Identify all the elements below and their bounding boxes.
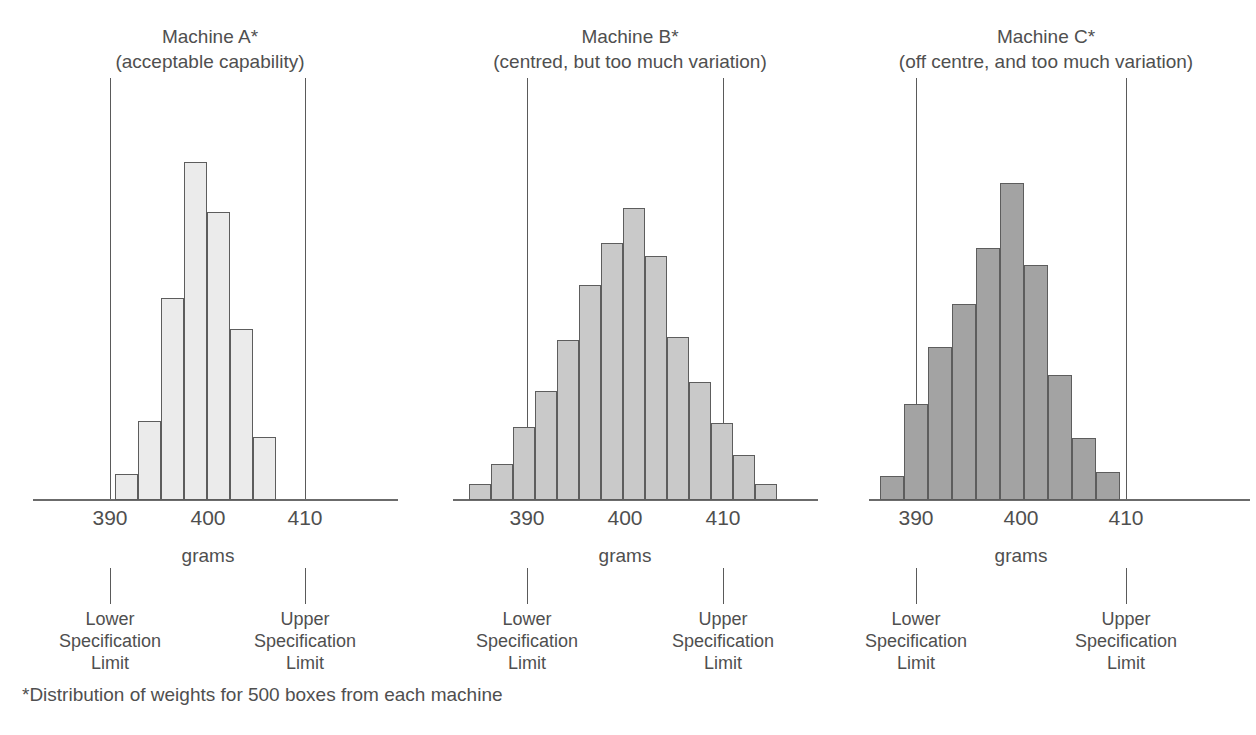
spec-caption-line3: Limit: [476, 652, 578, 674]
spec-caption-line1: Lower: [476, 608, 578, 630]
spec-caption-line3: Limit: [254, 652, 356, 674]
spec-caption-line2: Specification: [865, 630, 967, 652]
panel-a-lower-spec-caption: Lower Specification Limit: [59, 608, 161, 674]
panel-machine-a: Machine A* (acceptable capability) 390 4…: [0, 0, 420, 700]
panel-b-axis-name: grams: [599, 545, 652, 567]
bar: [733, 455, 755, 500]
capability-histograms-figure: Machine A* (acceptable capability) 390 4…: [0, 0, 1256, 735]
panel-machine-b: Machine B* (centred, but too much variat…: [420, 0, 840, 700]
bar: [1024, 265, 1048, 500]
panel-b-tick-390: 390: [509, 506, 544, 530]
figure-footnote: *Distribution of weights for 500 boxes f…: [22, 684, 503, 706]
panel-a-tick-410: 410: [287, 506, 322, 530]
bar: [711, 423, 733, 500]
panel-b-tick-400: 400: [607, 506, 642, 530]
panel-a-upper-spec-line: [305, 78, 306, 500]
panel-b-plot: [420, 0, 840, 500]
panel-b-upper-spec-stem: [723, 568, 724, 604]
panel-a-upper-spec-caption: Upper Specification Limit: [254, 608, 356, 674]
spec-caption-line3: Limit: [1075, 652, 1177, 674]
panel-a-tick-390: 390: [92, 506, 127, 530]
panel-machine-c: Machine C* (off centre, and too much var…: [836, 0, 1256, 700]
panel-c-axis-name: grams: [995, 545, 1048, 567]
panel-a-axis-name: grams: [182, 545, 235, 567]
spec-caption-line3: Limit: [59, 652, 161, 674]
panel-c-upper-spec-stem: [1126, 568, 1127, 604]
bar: [928, 347, 952, 500]
panel-a-upper-spec-stem: [305, 568, 306, 604]
bar: [952, 304, 976, 500]
bar: [1000, 183, 1024, 500]
panel-b-lower-spec-caption: Lower Specification Limit: [476, 608, 578, 674]
bar: [1072, 438, 1096, 500]
panel-c-upper-spec-line: [1126, 78, 1127, 500]
bar: [513, 427, 535, 500]
bar: [115, 474, 138, 500]
panel-a-plot: [0, 0, 420, 500]
bar: [976, 248, 1000, 500]
panel-c-upper-spec-caption: Upper Specification Limit: [1075, 608, 1177, 674]
spec-caption-line1: Upper: [672, 608, 774, 630]
bar: [230, 329, 253, 500]
spec-caption-line1: Upper: [1075, 608, 1177, 630]
bar: [601, 243, 623, 500]
bar: [184, 162, 207, 500]
spec-caption-line1: Upper: [254, 608, 356, 630]
bar: [469, 484, 491, 500]
panel-b-upper-spec-caption: Upper Specification Limit: [672, 608, 774, 674]
panel-a-lower-spec-stem: [110, 568, 111, 604]
spec-caption-line2: Specification: [476, 630, 578, 652]
bar: [579, 285, 601, 500]
bar: [880, 476, 904, 500]
bar: [645, 256, 667, 500]
panel-b-lower-spec-stem: [527, 568, 528, 604]
spec-caption-line1: Lower: [59, 608, 161, 630]
spec-caption-line2: Specification: [254, 630, 356, 652]
spec-caption-line2: Specification: [59, 630, 161, 652]
bar: [689, 382, 711, 500]
bar: [557, 340, 579, 500]
spec-caption-line2: Specification: [672, 630, 774, 652]
bar: [161, 298, 184, 500]
panel-c-plot: [836, 0, 1256, 500]
panel-c-tick-390: 390: [898, 506, 933, 530]
bar: [207, 212, 230, 500]
bar: [623, 208, 645, 500]
bar: [1096, 472, 1120, 500]
spec-caption-line3: Limit: [672, 652, 774, 674]
spec-caption-line2: Specification: [1075, 630, 1177, 652]
panel-a-tick-400: 400: [190, 506, 225, 530]
bar: [253, 437, 276, 500]
panel-b-tick-410: 410: [705, 506, 740, 530]
panel-c-lower-spec-caption: Lower Specification Limit: [865, 608, 967, 674]
spec-caption-line3: Limit: [865, 652, 967, 674]
panel-a-lower-spec-line: [110, 78, 111, 500]
bar: [755, 484, 777, 500]
bar: [667, 337, 689, 500]
bar: [904, 404, 928, 500]
bar: [491, 464, 513, 500]
bar: [1048, 375, 1072, 500]
bar: [535, 391, 557, 500]
panel-c-lower-spec-stem: [916, 568, 917, 604]
bar: [138, 421, 161, 500]
panel-c-tick-410: 410: [1108, 506, 1143, 530]
panel-c-tick-400: 400: [1003, 506, 1038, 530]
spec-caption-line1: Lower: [865, 608, 967, 630]
